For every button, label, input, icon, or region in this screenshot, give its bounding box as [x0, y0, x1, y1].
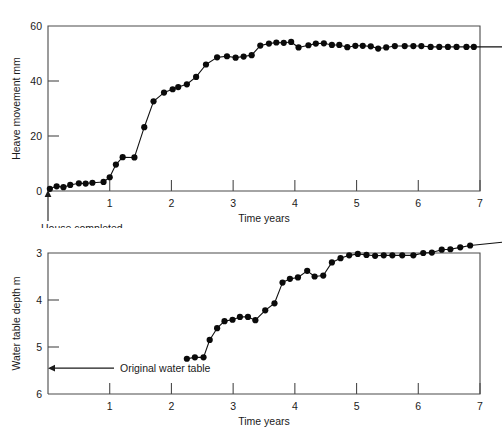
- data-point: [229, 317, 235, 323]
- data-point: [67, 182, 73, 188]
- y-axis-title: Water table depth m: [10, 276, 22, 370]
- data-point: [271, 300, 277, 306]
- x-tick-label: 1: [107, 197, 113, 209]
- data-point: [418, 43, 424, 49]
- data-point: [120, 154, 126, 160]
- data-point: [249, 52, 255, 58]
- x-tick-label: 5: [354, 400, 360, 412]
- data-point: [375, 45, 381, 51]
- data-point: [436, 44, 442, 50]
- y-axis-title: Heave movement mm: [10, 57, 22, 160]
- data-point: [304, 268, 310, 274]
- data-point: [150, 98, 156, 104]
- data-point: [131, 154, 137, 160]
- data-point: [453, 44, 459, 50]
- data-point: [360, 43, 366, 49]
- data-point: [399, 252, 405, 258]
- data-point: [372, 253, 378, 259]
- data-point: [383, 44, 389, 50]
- data-point: [337, 255, 343, 261]
- original-water-table-arrowhead: [48, 365, 55, 372]
- y-tick-label: 4: [36, 294, 42, 306]
- data-point: [295, 44, 301, 50]
- data-point: [107, 174, 113, 180]
- data-point: [363, 252, 369, 258]
- data-point: [288, 39, 294, 45]
- data-point: [257, 42, 263, 48]
- data-point: [221, 318, 227, 324]
- x-tick-label: 4: [292, 197, 298, 209]
- data-point: [214, 325, 220, 331]
- water-table-depth-chart: 34561234567Time yearsWater table depth m…: [0, 228, 504, 439]
- x-tick-label: 1: [107, 400, 113, 412]
- data-point: [83, 180, 89, 186]
- data-point: [214, 54, 220, 60]
- data-point: [273, 39, 279, 45]
- x-tick-label: 6: [415, 197, 421, 209]
- data-point: [420, 250, 426, 256]
- data-point: [184, 356, 190, 362]
- data-point: [175, 84, 181, 90]
- data-point: [471, 44, 477, 50]
- data-point: [392, 43, 398, 49]
- x-tick-label: 3: [230, 197, 236, 209]
- data-point: [467, 242, 473, 248]
- heave-movement-chart: 02040601234567Time yearsHeave movement m…: [0, 0, 504, 228]
- data-point: [402, 43, 408, 49]
- data-point: [410, 252, 416, 258]
- x-tick-label: 2: [169, 197, 175, 209]
- data-point: [463, 44, 469, 50]
- water-table-depth-plot: 34561234567Time yearsWater table depth m…: [0, 228, 504, 439]
- data-point: [233, 55, 239, 61]
- data-point: [192, 354, 198, 360]
- data-point: [279, 280, 285, 286]
- data-point: [241, 53, 247, 59]
- data-point: [281, 40, 287, 46]
- data-point: [54, 183, 60, 189]
- x-tick-label: 5: [354, 197, 360, 209]
- x-tick-label: 2: [169, 400, 175, 412]
- data-point: [203, 61, 209, 67]
- data-point: [344, 44, 350, 50]
- data-point: [170, 86, 176, 92]
- data-point: [200, 354, 206, 360]
- data-point: [266, 41, 272, 47]
- data-point: [329, 259, 335, 265]
- data-point: [428, 44, 434, 50]
- data-point: [245, 314, 251, 320]
- data-point: [295, 274, 301, 280]
- data-point: [76, 180, 82, 186]
- data-point: [193, 74, 199, 80]
- data-point: [224, 53, 230, 59]
- x-axis-title: Time years: [238, 415, 290, 427]
- data-point: [321, 40, 327, 46]
- y-tick-label: 20: [30, 130, 42, 142]
- data-point: [141, 124, 147, 130]
- y-tick-label: 0: [36, 185, 42, 197]
- data-point: [445, 44, 451, 50]
- y-tick-label: 6: [36, 388, 42, 400]
- data-point: [100, 179, 106, 185]
- data-point: [336, 42, 342, 48]
- data-point: [410, 43, 416, 49]
- data-point: [312, 273, 318, 279]
- data-point: [60, 184, 66, 190]
- plot-frame: [48, 26, 480, 191]
- data-point: [352, 43, 358, 49]
- data-point: [305, 42, 311, 48]
- data-point: [381, 252, 387, 258]
- x-tick-label: 7: [477, 400, 483, 412]
- data-point: [447, 246, 453, 252]
- data-point: [161, 89, 167, 95]
- data-point: [113, 162, 119, 168]
- data-point: [287, 276, 293, 282]
- data-point: [207, 337, 213, 343]
- y-tick-label: 40: [30, 75, 42, 87]
- x-tick-label: 6: [415, 400, 421, 412]
- y-tick-label: 60: [30, 20, 42, 32]
- data-point: [346, 252, 352, 258]
- data-point: [184, 81, 190, 87]
- data-series-line: [187, 242, 502, 359]
- x-tick-label: 3: [230, 400, 236, 412]
- data-point: [89, 180, 95, 186]
